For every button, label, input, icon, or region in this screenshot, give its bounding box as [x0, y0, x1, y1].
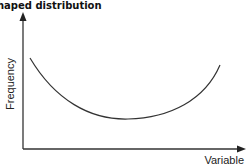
x-axis-label: Variable	[204, 154, 244, 166]
chart-title: haped distribution	[0, 0, 102, 11]
y-axis-arrow-icon	[20, 12, 27, 21]
u-shaped-distribution-chart: haped distribution Frequency Variable	[0, 0, 247, 166]
x-axis-arrow-icon	[237, 146, 246, 153]
y-axis-label: Frequency	[4, 58, 16, 110]
distribution-curve	[30, 58, 220, 119]
